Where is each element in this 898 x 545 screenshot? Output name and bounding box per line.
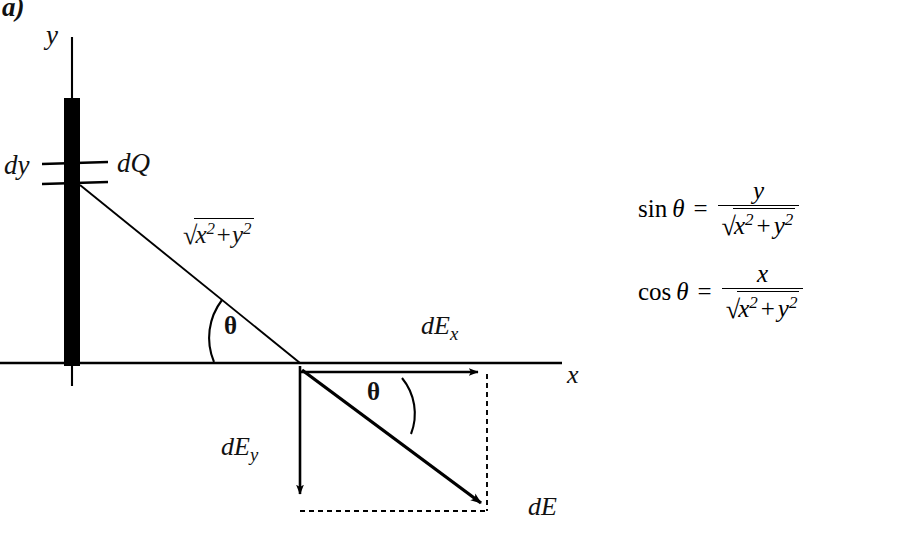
sin-den-plus: + (754, 212, 774, 239)
dy-tick-upper (42, 162, 108, 164)
cos-den-y: y (778, 295, 789, 322)
cos-numerator: x (751, 261, 774, 288)
dEy-subscript: y (250, 444, 258, 465)
radical-y-exponent: 2 (243, 219, 252, 238)
sin-den-y: y (774, 212, 785, 239)
x-axis-label: x (567, 362, 579, 388)
dy-tick-lower (42, 182, 108, 184)
cos-den-plus: + (758, 295, 778, 322)
distance-radical-label: √x2+y2 (183, 218, 254, 248)
upper-theta-arc (209, 300, 222, 362)
dE-resultant-vector-arrow (302, 370, 481, 503)
dEx-base: dE (421, 311, 450, 340)
radical-x-term: x (195, 221, 206, 248)
cos-den-radical-sign: √ (726, 295, 740, 324)
cos-denominator: √x2+y2 (722, 288, 804, 324)
sin-formula-row: sin θ = y √x2+y2 (638, 178, 898, 241)
sin-denominator: √x2+y2 (718, 205, 800, 241)
sin-numerator: y (747, 178, 770, 205)
lower-theta-label: θ (367, 379, 380, 404)
sin-den-radical-sign: √ (722, 212, 736, 241)
cos-function-name: cos (638, 278, 671, 306)
dE-base: dE (528, 492, 557, 521)
lower-theta-arc (402, 378, 415, 434)
radical-y-term: y (232, 221, 243, 248)
cos-formula-row: cos θ = x √x2+y2 (638, 261, 898, 324)
part-label: a) (2, 0, 25, 21)
dQ-label: dQ (117, 150, 150, 177)
sin-den-y-exponent: 2 (785, 210, 794, 229)
cos-den-y-exponent: 2 (789, 293, 798, 312)
dy-label: dy (4, 152, 29, 179)
dEy-base: dE (221, 432, 250, 461)
figure-canvas: a) y x dy dQ θ θ √x2+y2 dEx dEy dE sin θ… (0, 0, 898, 545)
cos-theta-symbol: θ (676, 278, 688, 306)
sin-theta-symbol: θ (672, 195, 684, 223)
trig-formula-block: sin θ = y √x2+y2 cos θ = x √x2+y2 (638, 178, 898, 344)
sin-function-name: sin (638, 195, 667, 223)
radical-sign: √ (183, 221, 197, 250)
upper-theta-label: θ (224, 313, 237, 338)
cos-fraction: x √x2+y2 (722, 261, 804, 324)
charged-rod (64, 98, 80, 366)
cos-equals-sign: = (698, 278, 712, 306)
dQ-leader-line (80, 185, 300, 363)
cos-den-x-exponent: 2 (749, 293, 758, 312)
dEx-label: dEx (421, 313, 458, 343)
sin-equals-sign: = (693, 195, 707, 223)
y-axis-label: y (46, 22, 58, 49)
radical-plus: + (215, 221, 232, 248)
dEy-label: dEy (221, 434, 258, 464)
sin-fraction: y √x2+y2 (718, 178, 800, 241)
dEx-subscript: x (450, 323, 458, 344)
dE-label: dE (528, 494, 557, 520)
sin-den-x-exponent: 2 (745, 210, 754, 229)
radical-x-exponent: 2 (207, 219, 216, 238)
